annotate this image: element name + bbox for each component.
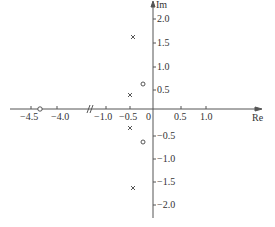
x-tick-label: 0.5: [174, 112, 187, 122]
y-tick-label: −1.5: [157, 177, 175, 187]
y-tick-label: −1.0: [157, 154, 175, 164]
x-tick-label: 1.0: [200, 112, 213, 122]
y-tick-label: 1.5: [157, 38, 170, 48]
y-tick-label: 1.0: [157, 62, 170, 72]
y-tick-label: −0.5: [157, 131, 175, 141]
y-tick-label: 0.5: [157, 85, 170, 95]
pole-zero-plot: [0, 0, 275, 227]
re-label: Re: [252, 113, 263, 123]
real-axis-arrow: [255, 107, 262, 111]
y-tick-label: 2.0: [157, 14, 170, 24]
x-tick-label: −4.0: [51, 112, 69, 122]
y-tick-label: −2.0: [157, 200, 175, 210]
x-tick-label: −1.0: [94, 112, 112, 122]
im-label: Im: [156, 0, 167, 10]
x-tick-label: −4.5: [20, 112, 38, 122]
x-tick-label: −0.5: [119, 112, 137, 122]
x-tick-label: 0: [146, 112, 151, 122]
imag-axis-arrow: [151, 1, 155, 7]
